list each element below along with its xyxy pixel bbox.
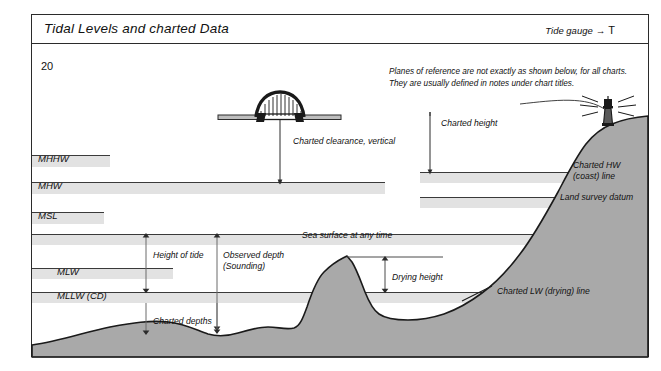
annotation-charted-lw-line: Charted LW (drying) line — [497, 286, 590, 297]
observed-depth-line-1: Observed depth — [223, 250, 284, 260]
annotation-land-survey-datum: Land survey datum — [560, 192, 633, 203]
charted-hw-line-1: Charted HW — [573, 160, 620, 170]
annotation-observed-depth: Observed depth (Sounding) — [223, 250, 309, 273]
height-of-tide-measure — [143, 233, 150, 293]
annotation-drying-height: Drying height — [392, 272, 443, 283]
arch-bridge-icon — [218, 92, 341, 122]
annotation-charted-depths: Charted depths — [153, 316, 212, 327]
annotation-sea-surface: Sea surface at any time — [302, 230, 392, 241]
charted-hw-line-2: (coast) line — [573, 171, 615, 181]
annotation-charted-clearance: Charted clearance, vertical — [293, 136, 395, 147]
diagram-artwork — [0, 0, 661, 371]
diagram-canvas: Tidal Levels and charted Data Tide gauge… — [0, 0, 661, 371]
annotation-charted-height: Charted height — [441, 118, 497, 129]
annotation-charted-hw-line: Charted HW (coast) line — [573, 160, 647, 183]
observed-depth-line-2: (Sounding) — [223, 261, 265, 271]
note-pointer — [520, 100, 606, 110]
annotation-height-of-tide: Height of tide — [153, 250, 204, 261]
